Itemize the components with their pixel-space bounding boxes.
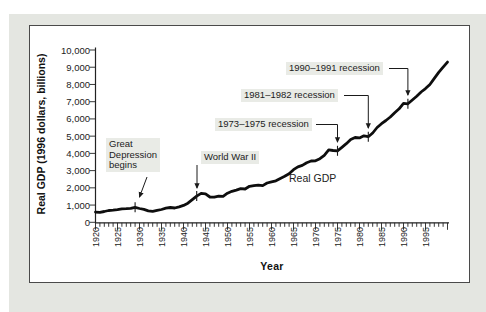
x-tick-label: 1920 <box>91 227 101 247</box>
annotation-recession-90-91: 1990–1991 recession <box>286 62 383 75</box>
annotation-arrows <box>140 69 408 198</box>
annotation-recession-73-75: 1973–1975 recession <box>215 118 312 131</box>
annotation-great-depression: Great Depression begins <box>106 138 160 172</box>
y-tick-label: 9,000 <box>38 62 90 73</box>
y-tick-label: 3,000 <box>38 165 90 176</box>
x-tick-label: 1990 <box>399 227 409 247</box>
x-tick-label: 1975 <box>333 227 343 247</box>
x-tick-label: 1995 <box>421 227 431 247</box>
y-tick-label: 8,000 <box>38 79 90 90</box>
y-tick-label: 4,000 <box>38 148 90 159</box>
arrow-great-depression <box>140 177 148 197</box>
x-tick-label: 1980 <box>355 227 365 247</box>
y-tick-label: 0 <box>38 217 90 228</box>
x-tick-label: 1965 <box>289 227 299 247</box>
arrow-recession-90-91 <box>389 69 408 96</box>
y-tick-label: 7,000 <box>38 96 90 107</box>
x-tick-label: 1935 <box>157 227 167 247</box>
x-tick-label: 1960 <box>267 227 277 247</box>
figure: Real GDP (1996 dollars, billions) Year G… <box>0 0 486 312</box>
y-tick-label: 6,000 <box>38 113 90 124</box>
y-tick-label: 1,000 <box>38 200 90 211</box>
x-tick-label: 1940 <box>179 227 189 247</box>
y-tick-label: 2,000 <box>38 182 90 193</box>
curve-label-real-gdp: Real GDP <box>289 172 336 184</box>
arrow-recession-81-82 <box>344 96 368 129</box>
x-tick-label: 1955 <box>245 227 255 247</box>
x-tick-label: 1925 <box>113 227 123 247</box>
x-tick-label: 1970 <box>311 227 321 247</box>
arrow-recession-73-75 <box>316 125 338 143</box>
annotation-world-war-ii: World War II <box>201 151 259 164</box>
x-tick-label: 1930 <box>135 227 145 247</box>
y-tick-label: 10,000 <box>38 45 90 56</box>
y-tick-label: 5,000 <box>38 131 90 142</box>
x-tick-label: 1945 <box>201 227 211 247</box>
axis-spines <box>96 48 450 223</box>
annotation-recession-81-82: 1981–1982 recession <box>241 89 338 102</box>
x-axis-title: Year <box>260 260 283 272</box>
x-tick-label: 1985 <box>377 227 387 247</box>
x-tick-label: 1950 <box>223 227 233 247</box>
